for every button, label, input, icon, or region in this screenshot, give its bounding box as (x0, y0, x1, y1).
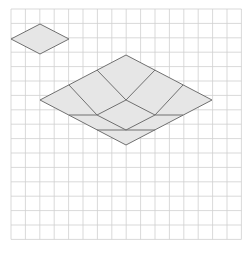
small-rhombus (11, 24, 69, 54)
tiling-diagram (0, 0, 246, 253)
